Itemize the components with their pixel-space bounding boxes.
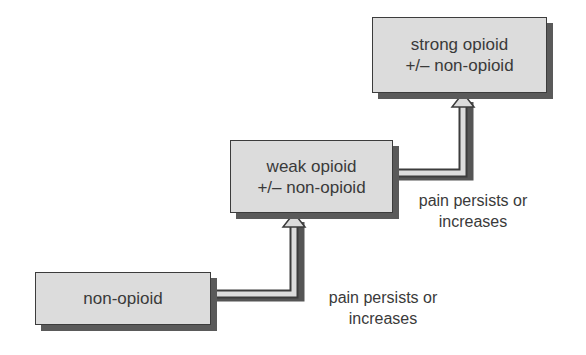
arrowhead-1-icon bbox=[283, 213, 305, 227]
transition-label-line-2: increases bbox=[308, 308, 458, 329]
transition-label-1: pain persists or increases bbox=[308, 287, 458, 329]
connector-arrow-2 bbox=[389, 93, 474, 176]
connector-arrow-1 bbox=[209, 213, 305, 297]
step-box-strong-opioid: strong opioid +/– non-opioid bbox=[372, 17, 547, 93]
step-label-line-2: +/– non-opioid bbox=[405, 55, 513, 76]
transition-label-line-1: pain persists or bbox=[398, 190, 548, 211]
step-box-non-opioid: non-opioid bbox=[35, 272, 211, 325]
step-label-line-1: strong opioid bbox=[411, 34, 508, 55]
transition-label-2: pain persists or increases bbox=[398, 190, 548, 232]
transition-label-line-2: increases bbox=[398, 211, 548, 232]
step-label-line-1: non-opioid bbox=[83, 288, 162, 309]
step-label-line-1: weak opioid bbox=[267, 156, 357, 177]
step-label-line-2: +/– non-opioid bbox=[257, 177, 365, 198]
transition-label-line-1: pain persists or bbox=[308, 287, 458, 308]
step-box-weak-opioid: weak opioid +/– non-opioid bbox=[230, 140, 393, 213]
arrowhead-2-icon bbox=[452, 93, 474, 107]
